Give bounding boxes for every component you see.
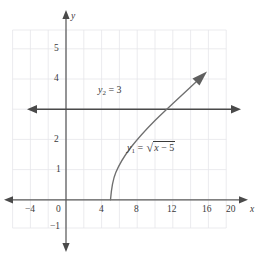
y-axis-arrow-up-icon: [62, 10, 69, 19]
radicand-number: 5: [169, 142, 174, 153]
grid-lines: [13, 30, 227, 228]
x-tick-label-8: 8: [134, 205, 139, 215]
x-axis-arrow-left-icon: [4, 196, 13, 203]
y-axis-arrow-down-icon: [62, 243, 69, 252]
radical-sign-icon: √: [147, 141, 154, 155]
x-tick-label-4: 4: [99, 205, 104, 215]
y2-arrow-left-icon: [27, 105, 37, 113]
graph-figure: 5 4 2 1 −1 −4 0 4 8 12 16 20 y x y2 = 3 …: [0, 0, 264, 256]
y-tick-label-5: 5: [54, 44, 59, 54]
y-tick-label-4: 4: [54, 74, 59, 84]
x-tick-label-neg4: −4: [25, 205, 35, 215]
x-tick-label-16: 16: [202, 205, 212, 215]
y2-value: 3: [117, 84, 122, 95]
y-axis-label: y: [71, 12, 75, 22]
x-axis-label: x: [250, 205, 254, 215]
x-axis: [4, 196, 248, 203]
x-axis-arrow-icon: [239, 196, 248, 203]
y-axis: [62, 10, 69, 252]
series-y1-curve: [111, 72, 208, 200]
x-tick-label-20: 20: [226, 205, 236, 215]
y-tick-label-2: 2: [54, 135, 59, 145]
y2-arrow-right-icon: [231, 105, 241, 113]
radical-expression: √x − 5: [146, 141, 176, 153]
y-tick-label-1: 1: [56, 165, 61, 175]
series-label-y2: y2 = 3: [98, 85, 122, 97]
plot-canvas: [0, 0, 264, 256]
x-tick-label-0: 0: [56, 205, 61, 215]
x-tick-label-12: 12: [167, 205, 177, 215]
y-tick-label-neg1: −1: [50, 222, 60, 232]
radicand: x − 5: [153, 141, 175, 153]
series-label-y1: y1 = √x − 5: [127, 141, 175, 155]
series-y2-line: [27, 105, 241, 113]
